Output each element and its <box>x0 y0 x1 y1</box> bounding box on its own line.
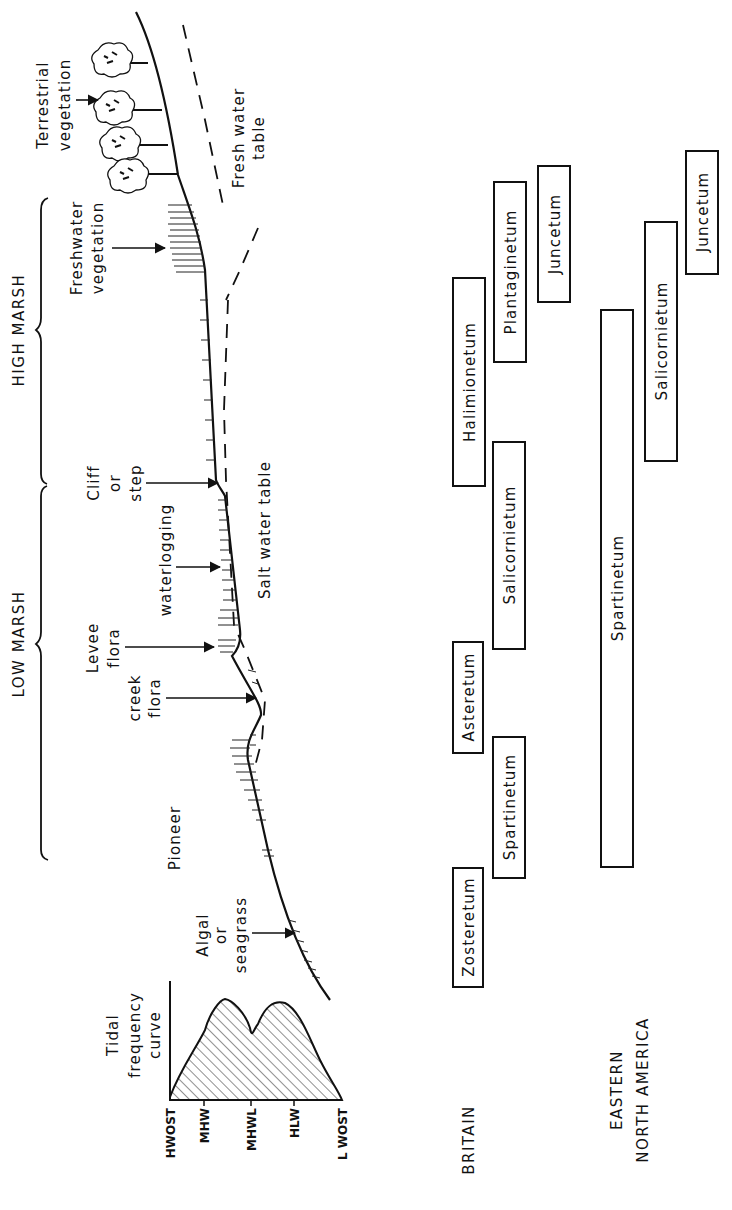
levee-label-line1: Levee <box>84 623 102 674</box>
creek-label-line1: creek <box>126 674 144 721</box>
tick-mhw: MHW <box>198 1108 212 1143</box>
community-label: Zosteretum <box>460 877 478 976</box>
tick-hwost: HWOST <box>164 1107 178 1158</box>
community-label: Asteretum <box>460 652 478 741</box>
tick-lwost: L WOST <box>336 1107 350 1160</box>
tick-mhwl: MHWL <box>245 1108 259 1151</box>
freshwater-veg-label-line2: vegetation <box>89 202 107 295</box>
trees <box>92 43 178 193</box>
community-label: Juncetum <box>694 172 712 254</box>
tick-hlw: HLW <box>288 1108 302 1138</box>
community-label: Spartinetum <box>609 535 627 641</box>
tree-icon <box>108 159 178 193</box>
region-britain-label: BRITAIN <box>460 1105 478 1175</box>
cliff-label-line2: or <box>106 474 124 492</box>
region-na-label-line2: NORTH AMERICA <box>634 1017 652 1162</box>
fresh-water-table-label-line1: Fresh water <box>230 88 248 189</box>
tidal-title-line1: Tidal <box>104 1014 122 1057</box>
community-label: Salicornietum <box>653 282 671 401</box>
tidal-curve-area <box>170 999 342 1100</box>
community-label: Spartinetum <box>501 754 519 860</box>
terrestrial-label-line2: vegetation <box>56 59 74 152</box>
freshwater-veg-label-line1: Freshwater <box>68 201 86 296</box>
creek-label-line2: flora <box>146 678 164 718</box>
tidal-title-line2: frequency <box>126 992 144 1078</box>
community-label: Plantaginetum <box>502 209 520 334</box>
community-label: Halimionetum <box>461 322 479 442</box>
tidal-frequency-curve <box>170 981 342 1106</box>
waterlogging-label: waterlogging <box>157 504 175 617</box>
low-marsh-brace-path <box>36 486 48 860</box>
cliff-label-line3: step <box>127 464 145 501</box>
salt-marsh-zonation-diagram: HIGH MARSH LOW MARSH <box>0 0 732 1210</box>
salt-water-table-label: Salt water table <box>256 461 274 599</box>
high-marsh-label: HIGH MARSH <box>10 274 28 387</box>
fresh-water-table-label-line2: table <box>250 116 268 160</box>
algal-label-line3: seagrass <box>232 897 250 973</box>
tree-icon <box>94 91 162 125</box>
tree-icon <box>92 43 148 77</box>
algal-label-line1: Algal <box>194 913 212 956</box>
zone-braces <box>36 198 48 860</box>
high-marsh-brace-path <box>36 198 48 484</box>
community-label: Salicornietum <box>501 486 519 605</box>
terrestrial-label-line1: Terrestrial <box>34 61 52 149</box>
tree-icon <box>100 127 168 161</box>
community-label: Juncetum <box>546 194 564 276</box>
britain-communities: Zosteretum Spartinetum Asteretum Salicor… <box>453 166 570 987</box>
fresh-water-table-lower <box>226 228 258 300</box>
fresh-water-table-line <box>183 25 224 210</box>
levee-label-line2: flora <box>105 628 123 668</box>
low-marsh-label: LOW MARSH <box>10 590 28 697</box>
region-na-label-line1: EASTERN <box>608 1050 626 1130</box>
cliff-label-line1: Cliff <box>85 465 103 500</box>
algal-label-line2: or <box>212 926 230 944</box>
pioneer-label: Pioneer <box>166 806 184 871</box>
north-america-communities: Spartinetum Salicornietum Juncetum <box>601 151 718 867</box>
tidal-title-line3: curve <box>146 1011 164 1059</box>
